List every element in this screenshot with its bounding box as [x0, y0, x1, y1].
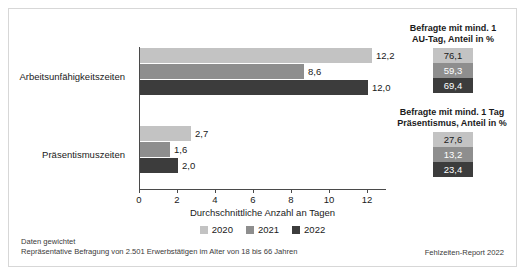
plot-area: 0 2 4 6 8 10 12 Arbeitsunfähigkeitszeite…	[9, 9, 516, 266]
x-tick-2	[177, 189, 178, 193]
bar-praesentismuszeiten-2021	[140, 142, 170, 157]
x-tick-label-10: 10	[324, 194, 335, 205]
bar-arbeitsunfaehigkeitszeiten-2020	[140, 48, 372, 63]
bar-value-praesentismuszeiten-2021: 1,6	[174, 142, 187, 157]
bar-value-arbeitsunfaehigkeitszeiten-2020: 12,2	[376, 48, 395, 63]
side-panel-au-header-line1: Befragte mit mind. 1	[394, 23, 512, 34]
legend-label-2020: 2020	[212, 224, 233, 235]
bar-arbeitsunfaehigkeitszeiten-2021	[140, 64, 304, 79]
side-panel-au-values: 76,1 59,3 69,4	[433, 48, 473, 93]
legend-swatch-2022-icon	[292, 226, 300, 234]
side-panel-praesentismus-header-line2: Präsentismus, Anteil in %	[388, 118, 516, 129]
bar-arbeitsunfaehigkeitszeiten-2022	[140, 80, 368, 95]
x-tick-12	[367, 189, 368, 193]
x-tick-6	[253, 189, 254, 193]
bar-praesentismuszeiten-2020	[140, 126, 191, 141]
legend-label-2021: 2021	[258, 224, 279, 235]
legend-swatch-2021-icon	[246, 226, 254, 234]
side-panel-au-header-line2: AU-Tag, Anteil in %	[394, 34, 512, 45]
bar-value-praesentismuszeiten-2022: 2,0	[182, 158, 195, 173]
x-tick-8	[291, 189, 292, 193]
side-value-au-2022: 69,4	[433, 78, 473, 93]
chart-legend: 2020 2021 2022	[139, 224, 386, 235]
bar-value-praesentismuszeiten-2020: 2,7	[195, 126, 208, 141]
legend-item-2022: 2022	[292, 224, 325, 235]
side-value-au-2020: 76,1	[433, 48, 473, 63]
legend-item-2021: 2021	[246, 224, 279, 235]
legend-item-2020: 2020	[200, 224, 233, 235]
chart-footnotes: Daten gewichtet Repräsentative Befragung…	[21, 237, 298, 257]
x-tick-4	[215, 189, 216, 193]
category-label-praesentismuszeiten: Präsentismuszeiten	[42, 149, 125, 160]
legend-swatch-2020-icon	[200, 226, 208, 234]
side-value-praesentismus-2020: 27,6	[433, 132, 473, 147]
bar-praesentismuszeiten-2022	[140, 158, 178, 173]
x-tick-label-6: 6	[250, 194, 255, 205]
side-value-au-2021: 59,3	[433, 63, 473, 78]
footnote-line-1: Daten gewichtet	[21, 237, 298, 247]
x-tick-label-8: 8	[288, 194, 293, 205]
legend-label-2022: 2022	[304, 224, 325, 235]
x-tick-10	[329, 189, 330, 193]
side-panel-praesentismus-values: 27,6 13,2 23,4	[433, 132, 473, 177]
category-label-arbeitsunfaehigkeitszeiten: Arbeitsunfähigkeitszeiten	[19, 71, 125, 82]
x-tick-label-0: 0	[136, 194, 141, 205]
x-axis-title: Durchschnittliche Anzahl an Tagen	[139, 207, 386, 218]
chart-source: Fehlzeiten-Report 2022	[425, 248, 504, 257]
x-tick-0	[139, 189, 140, 193]
bar-value-arbeitsunfaehigkeitszeiten-2021: 8,6	[308, 64, 321, 79]
side-panel-praesentismus-header-line1: Befragte mit mind. 1 Tag	[388, 107, 516, 118]
x-tick-label-12: 12	[362, 194, 373, 205]
side-panel-praesentismus-header: Befragte mit mind. 1 Tag Präsentismus, A…	[388, 107, 516, 129]
side-value-praesentismus-2021: 13,2	[433, 147, 473, 162]
footnote-line-2: Repräsentative Befragung von 2.501 Erwer…	[21, 247, 298, 257]
x-tick-label-2: 2	[174, 194, 179, 205]
bar-value-arbeitsunfaehigkeitszeiten-2022: 12,0	[372, 80, 391, 95]
x-tick-label-4: 4	[212, 194, 217, 205]
side-value-praesentismus-2022: 23,4	[433, 162, 473, 177]
chart-figure: 0 2 4 6 8 10 12 Arbeitsunfähigkeitszeite…	[8, 8, 517, 267]
side-panel-au-header: Befragte mit mind. 1 AU-Tag, Anteil in %	[394, 23, 512, 45]
